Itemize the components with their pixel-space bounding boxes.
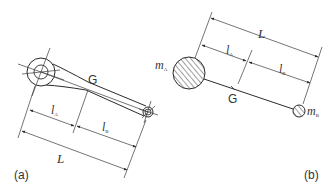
label-mA: mA	[155, 58, 168, 72]
caption-b: (b)	[304, 168, 319, 182]
label-lA-b: lA	[226, 43, 233, 57]
rod-body	[53, 64, 146, 106]
panel-a-connecting-rod: G lA lB L (a)	[14, 48, 158, 182]
caption-a: (a)	[14, 168, 29, 182]
massless-link	[204, 79, 293, 109]
label-lB-b: lB	[279, 62, 286, 76]
center-of-gravity-label-a: G	[88, 73, 97, 87]
label-L-a: L	[56, 151, 64, 166]
panel-b-two-mass-model: G L lA lB mA mB (b)	[155, 12, 322, 182]
mass-b-circle	[293, 105, 305, 117]
dimension-line-L-a	[22, 131, 127, 170]
label-mB: mB	[307, 104, 320, 118]
dimension-line-lA-b	[202, 45, 246, 61]
label-lB-a: lB	[102, 120, 109, 134]
label-L-b: L	[257, 26, 265, 41]
mass-a-circle	[173, 57, 205, 89]
center-of-gravity-label-b: G	[228, 92, 237, 106]
label-lA-a: lA	[51, 103, 58, 117]
